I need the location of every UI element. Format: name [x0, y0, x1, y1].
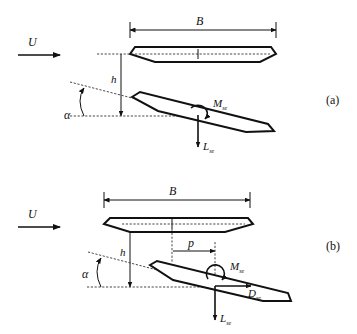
width-dimension-a: B [130, 14, 276, 38]
angle-label-b: α [82, 267, 89, 281]
panel-label-a: (a) [326, 93, 339, 107]
flow-label-a: U [28, 35, 38, 49]
angle-label-a: α [64, 108, 71, 122]
angle-arc-a [80, 88, 84, 116]
deck-reference-b [104, 218, 253, 232]
lift-label-a: Lse [202, 140, 214, 154]
flow-arrow-b: U [18, 207, 60, 227]
offset-label-b: p [187, 236, 194, 250]
moment-label-a: Mse [212, 97, 228, 111]
moment-label-b: Mse [229, 260, 245, 274]
deck-displaced-a [132, 92, 274, 132]
angle-arc-b [97, 258, 101, 287]
bridge-deck-diagram: U B h α Mse Lse (a) [0, 0, 357, 334]
panel-a: U B h α Mse Lse (a) [18, 14, 339, 154]
panel-label-b: (b) [326, 239, 340, 253]
flow-arrow-a: U [18, 35, 60, 55]
flow-label-b: U [28, 207, 38, 221]
deck-reference-a [130, 47, 276, 62]
width-dimension-b: B [104, 184, 250, 208]
height-label-b: h [120, 246, 126, 258]
width-label-b: B [169, 184, 177, 198]
lift-label-b: Lse [219, 312, 231, 326]
width-label-a: B [196, 14, 204, 28]
height-label-a: h [111, 73, 117, 85]
panel-b: U B p h α Mse [18, 184, 340, 326]
